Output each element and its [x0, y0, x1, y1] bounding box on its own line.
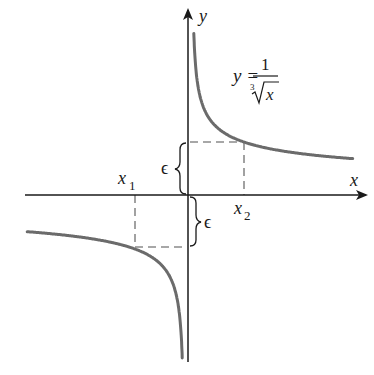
- x1-label: x 1: [117, 168, 136, 193]
- y-axis-label: y: [197, 6, 207, 26]
- x-axis-label: x: [349, 170, 358, 190]
- svg-text:x: x: [117, 168, 126, 188]
- svg-text:1: 1: [261, 55, 270, 74]
- svg-text:x: x: [265, 85, 274, 104]
- svg-text:1: 1: [129, 178, 136, 193]
- upper-epsilon-label: ϵ: [161, 158, 168, 178]
- svg-text:2: 2: [244, 208, 251, 223]
- curve-lower-branch: [27, 232, 182, 358]
- svg-text:3: 3: [250, 82, 255, 92]
- x2-label: x 2: [233, 198, 251, 223]
- lower-epsilon-brace: [190, 197, 201, 246]
- lower-epsilon-label: ϵ: [204, 212, 211, 232]
- function-graph: y x ϵ ϵ x 1 x 2 y = 1 3 x: [0, 0, 374, 375]
- function-formula: y = 1 3 x: [231, 55, 279, 104]
- upper-epsilon-brace: [175, 143, 186, 194]
- svg-text:x: x: [233, 198, 242, 218]
